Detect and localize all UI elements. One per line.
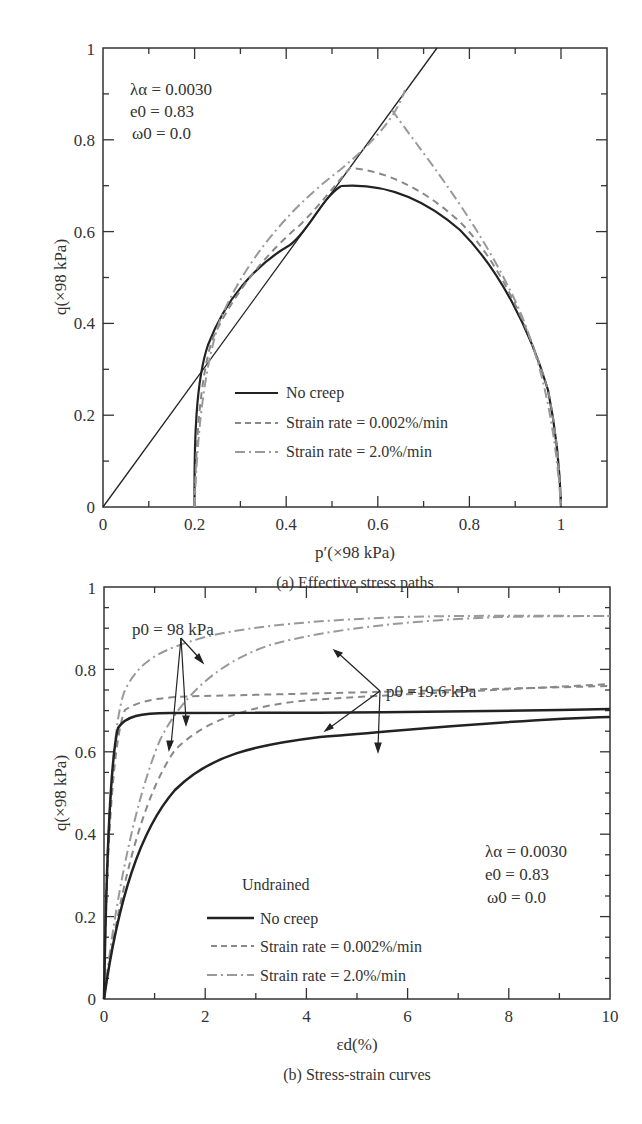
panel-a-x-ticks [149, 48, 561, 507]
svg-text:1: 1 [557, 515, 566, 534]
panel-a-effective-stress-paths: 0 0.2 0.4 0.6 0.8 1 0 0.2 0.4 0.6 0.8 1 … [51, 40, 607, 592]
svg-text:0.8: 0.8 [459, 515, 480, 534]
panel-a-y-ticks [103, 94, 607, 461]
svg-text:6: 6 [403, 1007, 412, 1026]
svg-text:0.4: 0.4 [276, 515, 298, 534]
svg-text:0: 0 [88, 990, 97, 1009]
svg-text:0.2: 0.2 [74, 406, 95, 425]
svg-text:e0 = 0.83: e0 = 0.83 [485, 865, 549, 884]
svg-text:4: 4 [302, 1007, 311, 1026]
svg-text:0.4: 0.4 [75, 825, 97, 844]
svg-text:8: 8 [505, 1007, 514, 1026]
figure: 0 0.2 0.4 0.6 0.8 1 0 0.2 0.4 0.6 0.8 1 … [0, 0, 642, 1124]
svg-text:0: 0 [99, 515, 108, 534]
svg-text:0.8: 0.8 [75, 661, 96, 680]
svg-text:0.6: 0.6 [367, 515, 388, 534]
svg-text:Undrained: Undrained [242, 876, 310, 893]
panel-a-y-axis-label: q(×98 kPa) [51, 239, 70, 315]
panel-b-y-tick-labels: 0 0.2 0.4 0.6 0.8 1 [75, 579, 97, 1009]
svg-text:0: 0 [100, 1007, 109, 1026]
panel-b-params: λα = 0.0030 e0 = 0.83 ω0 = 0.0 [485, 842, 567, 907]
panel-a-caption: (a) Effective stress paths [276, 574, 433, 592]
panel-a-params: λα = 0.0030 e0 = 0.83 ω0 = 0.0 [130, 80, 212, 143]
svg-text:λα = 0.0030: λα = 0.0030 [130, 80, 212, 99]
svg-text:0.6: 0.6 [75, 743, 96, 762]
panel-a-y-tick-labels: 0 0.2 0.4 0.6 0.8 1 [74, 40, 96, 517]
svg-text:Strain rate = 0.002%/min: Strain rate = 0.002%/min [260, 938, 422, 955]
svg-text:0.8: 0.8 [74, 131, 95, 150]
panel-b-legend: Undrained No creep Strain rate = 0.002%/… [207, 876, 422, 984]
svg-text:No creep: No creep [260, 910, 318, 928]
svg-text:ω0 = 0.0: ω0 = 0.0 [487, 888, 546, 907]
svg-text:Strain rate = 0.002%/min: Strain rate = 0.002%/min [286, 414, 448, 431]
svg-text:0.2: 0.2 [75, 908, 96, 927]
panel-b-y-axis-label: q(×98 kPa) [51, 755, 70, 831]
svg-text:10: 10 [602, 1007, 619, 1026]
svg-text:0.4: 0.4 [74, 314, 96, 333]
svg-text:Strain rate = 2.0%/min: Strain rate = 2.0%/min [286, 443, 432, 460]
svg-text:e0 = 0.83: e0 = 0.83 [130, 102, 194, 121]
panel-b-stress-strain-curves: 0 2 4 6 8 10 0 0.2 0.4 0.6 0.8 1 εd(%) q… [51, 579, 619, 1084]
panel-b-x-axis-label: εd(%) [336, 1035, 377, 1054]
panel-b-caption: (b) Stress-strain curves [283, 1066, 431, 1084]
svg-text:0.2: 0.2 [184, 515, 205, 534]
panel-a-x-tick-labels: 0 0.2 0.4 0.6 0.8 1 [99, 515, 566, 534]
svg-text:2: 2 [201, 1007, 210, 1026]
panel-a-x-axis-label: p′(×98 kPa) [315, 543, 395, 562]
svg-text:λα = 0.0030: λα = 0.0030 [485, 842, 567, 861]
svg-text:p0 = 98 kPa: p0 = 98 kPa [132, 620, 214, 639]
panel-a-legend: No creep Strain rate = 0.002%/min Strain… [235, 384, 448, 460]
svg-text:p0 =19.6 kPa: p0 =19.6 kPa [386, 682, 477, 701]
svg-text:No creep: No creep [286, 384, 344, 402]
svg-text:1: 1 [88, 579, 97, 598]
panel-b-y-ticks [104, 608, 610, 979]
panel-b-x-tick-labels: 0 2 4 6 8 10 [100, 1007, 619, 1026]
svg-text:ω0 = 0.0: ω0 = 0.0 [132, 124, 191, 143]
svg-text:0.6: 0.6 [74, 223, 95, 242]
svg-text:1: 1 [87, 40, 96, 59]
svg-text:Strain rate = 2.0%/min: Strain rate = 2.0%/min [260, 967, 406, 984]
svg-text:0: 0 [87, 498, 96, 517]
